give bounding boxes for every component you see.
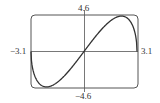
x-min-label: −3.1 — [10, 47, 26, 56]
y-min-label: −4.6 — [75, 92, 91, 101]
y-max-label: 4.6 — [78, 4, 89, 13]
x-max-label: 3.1 — [141, 47, 152, 56]
